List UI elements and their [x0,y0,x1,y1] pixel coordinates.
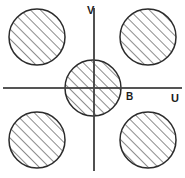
uv-diagram: V U B [0,0,185,178]
u-axis-label: U [171,92,179,104]
hatched-circles-group [0,0,185,178]
figure-container: V U B [0,0,185,178]
point-b-label: B [126,91,133,102]
v-axis-label: V [87,4,95,16]
